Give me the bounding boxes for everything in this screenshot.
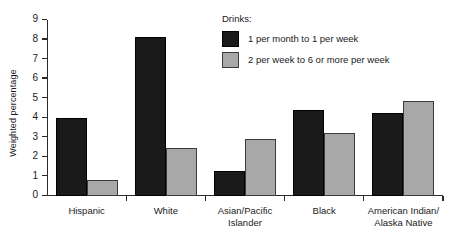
y-axis-tick: 5 bbox=[42, 97, 47, 98]
bar bbox=[56, 118, 87, 196]
bar bbox=[214, 171, 245, 196]
legend-swatch bbox=[222, 52, 239, 68]
bar bbox=[324, 133, 355, 196]
x-axis-label: Asian/Pacific Islander bbox=[205, 205, 284, 228]
x-axis-label: Black bbox=[285, 205, 364, 217]
y-axis-tick: 4 bbox=[42, 117, 47, 118]
x-axis-label: Hispanic bbox=[47, 205, 126, 217]
x-axis-tick bbox=[442, 196, 443, 201]
y-axis-tick-label: 1 bbox=[32, 171, 38, 181]
bar bbox=[372, 113, 403, 196]
bar bbox=[135, 37, 166, 196]
legend: Drinks: 1 per month to 1 per week2 per w… bbox=[222, 13, 447, 73]
bar bbox=[293, 110, 324, 196]
y-axis-tick: 8 bbox=[42, 38, 47, 39]
bar bbox=[166, 148, 197, 196]
y-axis-line bbox=[47, 20, 48, 196]
y-axis-tick-label: 0 bbox=[32, 190, 38, 200]
x-axis-tick bbox=[363, 196, 364, 201]
y-axis-tick: 9 bbox=[42, 19, 47, 20]
y-axis-tick-label: 2 bbox=[32, 151, 38, 161]
legend-label: 1 per month to 1 per week bbox=[248, 33, 358, 45]
y-axis-tick: 0 bbox=[42, 195, 47, 196]
x-axis-label: American Indian/ Alaska Native bbox=[364, 205, 443, 228]
y-axis-tick: 1 bbox=[42, 175, 47, 176]
legend-label: 2 per week to 6 or more per week bbox=[248, 54, 390, 66]
legend-item: 2 per week to 6 or more per week bbox=[222, 52, 447, 68]
y-axis-tick-label: 5 bbox=[32, 93, 38, 103]
y-axis-tick: 6 bbox=[42, 77, 47, 78]
legend-title: Drinks: bbox=[222, 13, 447, 25]
y-axis-tick: 2 bbox=[42, 156, 47, 157]
y-axis-tick: 3 bbox=[42, 136, 47, 137]
x-axis-tick bbox=[205, 196, 206, 201]
y-axis-tick: 7 bbox=[42, 58, 47, 59]
y-axis-tick-label: 3 bbox=[32, 132, 38, 142]
bar bbox=[87, 180, 118, 196]
x-axis-tick bbox=[284, 196, 285, 201]
y-axis-tick-label: 8 bbox=[32, 34, 38, 44]
y-axis-title: Weighted percentage bbox=[8, 53, 18, 173]
legend-item: 1 per month to 1 per week bbox=[222, 31, 447, 47]
legend-swatch bbox=[222, 31, 239, 47]
y-axis-tick-label: 4 bbox=[32, 112, 38, 122]
bar bbox=[403, 101, 434, 196]
bar bbox=[245, 139, 276, 196]
x-axis-label: White bbox=[126, 205, 205, 217]
y-axis-tick-label: 9 bbox=[32, 14, 38, 24]
y-axis-tick-label: 7 bbox=[32, 54, 38, 64]
bar-chart: Weighted percentage 0123456789 HispanicW… bbox=[0, 0, 453, 244]
x-axis-tick bbox=[126, 196, 127, 201]
y-axis-tick-label: 6 bbox=[32, 73, 38, 83]
